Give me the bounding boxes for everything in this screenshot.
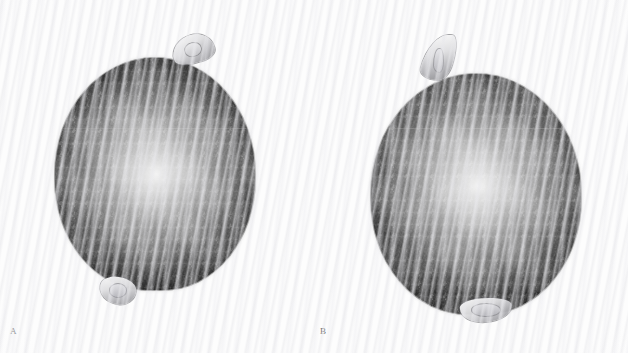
specimen-a-hilum-knob-icon bbox=[100, 277, 136, 304]
specimen-a-micropylar-beak-icon bbox=[172, 35, 214, 63]
panel-a-label: A bbox=[10, 327, 17, 336]
specimen-b-micropylar-beak-icon bbox=[424, 34, 454, 80]
specimen-b-body bbox=[371, 74, 581, 314]
panel-b-label: B bbox=[320, 327, 326, 336]
specimen-b-rim-shading bbox=[371, 74, 581, 314]
specimen-a-scan-seam bbox=[55, 128, 255, 129]
specimen-b bbox=[371, 74, 581, 314]
specimen-a-rim-shading bbox=[55, 58, 255, 290]
specimen-a-body bbox=[55, 58, 255, 290]
panel-b: B bbox=[314, 0, 628, 353]
specimen-a bbox=[55, 58, 255, 290]
specimen-b-scan-seam bbox=[371, 128, 581, 129]
specimen-b-hilum-knob-icon bbox=[460, 298, 512, 322]
figure-plate: A B bbox=[0, 0, 628, 353]
panel-a: A bbox=[0, 0, 314, 353]
hilum-b-inner-ring bbox=[471, 303, 500, 317]
beak-b-inner-ring bbox=[433, 48, 444, 73]
